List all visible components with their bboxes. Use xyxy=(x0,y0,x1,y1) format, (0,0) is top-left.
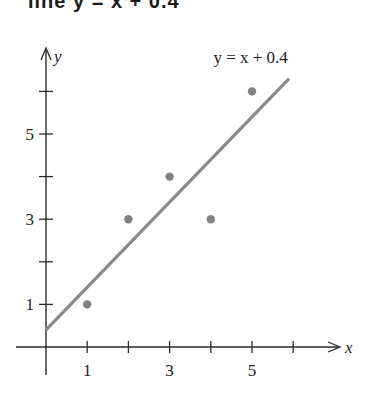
x-tick-label: 3 xyxy=(165,361,174,380)
y-tick-label: 3 xyxy=(26,210,35,229)
data-point xyxy=(248,87,256,95)
equation-label: y = x + 0.4 xyxy=(213,48,288,67)
data-point xyxy=(165,172,173,180)
scatter-chart: xy135135y = x + 0.4 xyxy=(0,0,372,402)
x-tick-label: 5 xyxy=(248,361,257,380)
data-point xyxy=(83,300,91,308)
y-tick-label: 5 xyxy=(26,125,35,144)
y-tick-label: 1 xyxy=(26,295,35,314)
data-point xyxy=(124,215,132,223)
y-axis-label: y xyxy=(52,47,62,66)
x-axis-label: x xyxy=(344,338,353,357)
data-point xyxy=(207,215,215,223)
x-tick-label: 1 xyxy=(83,361,92,380)
regression-line xyxy=(46,79,289,330)
